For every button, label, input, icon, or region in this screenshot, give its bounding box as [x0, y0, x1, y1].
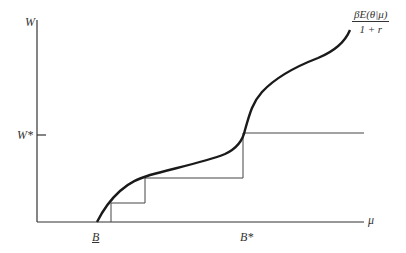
curve-label: βE(θ|μ) 1 + r [352, 8, 389, 35]
diagram-canvas [0, 0, 406, 253]
x-axis-label: μ [368, 214, 374, 226]
y-axis-label: W [25, 16, 35, 28]
curve-label-numerator: βE(θ|μ) [352, 8, 389, 22]
b-star-label: B* [240, 231, 253, 243]
curve-label-denominator: 1 + r [352, 22, 389, 35]
b-lower-label: B [92, 231, 99, 243]
value-curve [97, 30, 350, 222]
w-star-label: W* [17, 129, 33, 141]
